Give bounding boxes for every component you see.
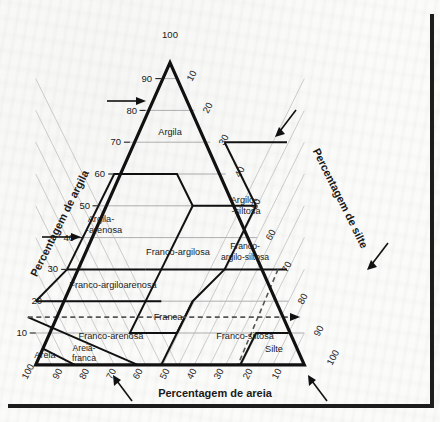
class-label-areia-franca-line1: Areia- bbox=[73, 343, 96, 353]
class-label-argila-arenosa-line2: -arenosa bbox=[86, 225, 123, 235]
tick-bottom-40: 40 bbox=[184, 366, 199, 381]
tick-bottom-90: 90 bbox=[50, 366, 65, 381]
tick-right-10: 10 bbox=[184, 68, 199, 83]
class-label-franco-argiloarenosa: Franco-argiloarenosa bbox=[69, 280, 157, 290]
tick-left-30: 30 bbox=[47, 263, 58, 274]
class-label-argilo-siltosa-line2: -siltosa bbox=[231, 206, 261, 216]
arrow-sand-right bbox=[308, 375, 327, 401]
tick-bottom-80: 80 bbox=[77, 366, 92, 381]
tick-right-40: 40 bbox=[232, 164, 247, 179]
soil-texture-triangle: 10 20 30 40 50 60 70 80 90 100 10 20 30 … bbox=[0, 0, 440, 422]
tick-right-90: 90 bbox=[311, 323, 326, 338]
tick-bottom-20: 20 bbox=[240, 366, 255, 381]
class-label-argilo-siltosa-line1: Argilo- bbox=[231, 195, 258, 205]
tick-left-50: 50 bbox=[79, 200, 90, 211]
tick-right-80: 80 bbox=[295, 291, 310, 306]
class-label-franca: Franca bbox=[154, 312, 183, 322]
tick-left-90: 90 bbox=[141, 73, 152, 84]
class-label-franco-argilosa: Franco-argilosa bbox=[146, 247, 211, 257]
arrow-sand-left bbox=[113, 375, 132, 401]
class-label-franco-argilo-siltosa-line2: argilo-siltosa bbox=[221, 252, 269, 262]
tick-right-20: 20 bbox=[200, 100, 215, 115]
tick-left-10: 10 bbox=[16, 327, 27, 338]
class-label-franco-arenosa: Franco-arenosa bbox=[79, 331, 145, 341]
tick-left-20: 20 bbox=[31, 295, 42, 306]
tick-left-60: 60 bbox=[94, 168, 105, 179]
arrow-clay-upper bbox=[107, 97, 146, 105]
tick-left-70: 70 bbox=[110, 136, 121, 147]
tick-right-30: 30 bbox=[216, 132, 231, 147]
class-label-areia: Areia bbox=[34, 350, 56, 360]
figure-page: 10 20 30 40 50 60 70 80 90 100 10 20 30 … bbox=[0, 0, 440, 422]
class-label-argila-arenosa-line1: Argila- bbox=[88, 214, 115, 224]
tick-bottom-10: 10 bbox=[269, 366, 284, 381]
class-label-franco-siltosa: Franco-siltosa bbox=[216, 331, 275, 341]
tick-right-60: 60 bbox=[263, 227, 278, 242]
tick-right-100: 100 bbox=[324, 348, 341, 367]
tick-bottom-60: 60 bbox=[130, 366, 145, 381]
tick-bottom-30: 30 bbox=[211, 366, 226, 381]
class-label-argila: Argila bbox=[158, 127, 182, 137]
tick-right-70: 70 bbox=[279, 259, 294, 274]
tick-left-100: 100 bbox=[162, 29, 178, 40]
class-label-franco-argilo-siltosa-line1: Franco- bbox=[230, 241, 260, 251]
arrow-silt-lower bbox=[367, 243, 388, 270]
axis-title-sand: Percentagem de areia bbox=[158, 387, 273, 399]
tick-bottom-100: 100 bbox=[19, 362, 36, 381]
axis-title-silt: Percentagem de silte bbox=[311, 146, 371, 250]
class-label-silte: Silte bbox=[265, 344, 283, 354]
tick-left-80: 80 bbox=[126, 105, 137, 116]
class-label-areia-franca-line2: franca bbox=[72, 353, 96, 363]
tick-bottom-50: 50 bbox=[157, 366, 172, 381]
